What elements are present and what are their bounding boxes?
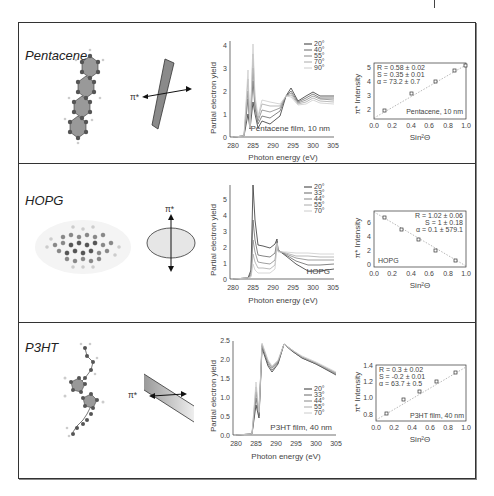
p3ht-molecule [55, 340, 115, 440]
svg-text:1: 1 [223, 260, 227, 267]
p3ht-orientation-plane: π* [128, 370, 208, 430]
svg-text:0.8: 0.8 [363, 411, 373, 418]
svg-text:π*: π* [165, 204, 175, 214]
svg-text:300: 300 [307, 142, 319, 149]
svg-text:0: 0 [223, 276, 227, 283]
svg-text:2: 2 [367, 106, 371, 113]
svg-text:Sin²Θ: Sin²Θ [410, 435, 430, 444]
pi-star-label: π* [130, 90, 150, 102]
svg-text:1.0: 1.0 [461, 122, 471, 129]
svg-text:Photon energy (eV): Photon energy (eV) [251, 452, 321, 461]
svg-text:0.2: 0.2 [387, 270, 397, 277]
svg-text:90°: 90° [314, 64, 325, 71]
svg-text:305: 305 [327, 142, 339, 149]
panel-title-hopg: HOPG [25, 193, 63, 208]
svg-text:1.2: 1.2 [363, 378, 373, 385]
svg-text:3: 3 [367, 92, 371, 99]
svg-text:2.0: 2.0 [220, 356, 230, 363]
pentacene-fit-chart: π* Intensity 2 3 4 5 0.0 0.2 0.4 0.6 0.8… [350, 60, 470, 150]
svg-text:HOPG: HOPG [306, 267, 330, 276]
hopg-graphene-lattice [33, 217, 133, 277]
svg-text:0: 0 [367, 261, 371, 268]
svg-text:0.0: 0.0 [220, 432, 230, 439]
svg-text:α = 63.7 ± 0.5: α = 63.7 ± 0.5 [379, 380, 422, 387]
hopg-spectrum-chart: Partial electron yield 0 1 2 3 4 5 280 2… [208, 180, 338, 310]
svg-text:280: 280 [230, 440, 242, 447]
svg-text:4: 4 [223, 42, 227, 49]
svg-text:Photon energy (eV): Photon energy (eV) [248, 296, 318, 305]
svg-text:1.4: 1.4 [363, 362, 373, 369]
hopg-orientation-plane: π* [145, 203, 205, 283]
svg-text:70°: 70° [314, 207, 325, 214]
svg-text:S = 0.35 ± 0.01: S = 0.35 ± 0.01 [377, 71, 425, 78]
svg-text:1: 1 [223, 111, 227, 118]
page-edge-mark [434, 0, 435, 8]
svg-text:2: 2 [223, 244, 227, 251]
pentacene-spectrum-chart: Partial electron yield 0 1 2 3 4 280 285… [208, 36, 338, 164]
svg-text:4: 4 [367, 78, 371, 85]
svg-text:0.2: 0.2 [387, 122, 397, 129]
svg-text:3: 3 [223, 228, 227, 235]
svg-text:1.0: 1.0 [461, 424, 471, 431]
hopg-fit-chart: π* Intensity 0 2 4 6 0.0 0.2 0.4 0.6 0.8… [350, 208, 470, 298]
svg-text:π* Intensity: π* Intensity [353, 372, 362, 413]
svg-text:70°: 70° [314, 409, 325, 416]
svg-text:6: 6 [367, 219, 371, 226]
svg-text:300: 300 [307, 284, 319, 291]
svg-text:Partial electron yield: Partial electron yield [209, 360, 218, 432]
panel-divider [18, 322, 476, 323]
svg-text:0.0: 0.0 [369, 270, 379, 277]
svg-text:1.5: 1.5 [220, 375, 230, 382]
svg-text:305: 305 [327, 284, 339, 291]
svg-text:0.5: 0.5 [220, 413, 230, 420]
svg-text:295: 295 [287, 142, 299, 149]
svg-text:0.4: 0.4 [406, 270, 416, 277]
svg-text:295: 295 [287, 284, 299, 291]
svg-text:0.4: 0.4 [406, 122, 416, 129]
svg-text:2.5: 2.5 [220, 337, 230, 344]
svg-text:Sin²Θ: Sin²Θ [410, 281, 430, 290]
svg-text:0.6: 0.6 [424, 122, 434, 129]
p3ht-fit-chart: π* Intensity 0.8 1.0 1.2 1.4 0.0 0.2 0.4… [350, 362, 470, 452]
svg-text:π*: π* [128, 390, 138, 400]
svg-text:290: 290 [267, 284, 279, 291]
svg-text:Pentacene film, 10 nm: Pentacene film, 10 nm [250, 124, 330, 133]
svg-text:P3HT film, 40 nm: P3HT film, 40 nm [410, 412, 464, 419]
svg-text:1.0: 1.0 [363, 394, 373, 401]
svg-text:π*: π* [130, 92, 140, 102]
svg-text:π* Intensity: π* Intensity [353, 74, 362, 115]
svg-text:HOPG: HOPG [378, 257, 399, 264]
svg-text:0.0: 0.0 [369, 122, 379, 129]
panel-title-p3ht: P3HT [25, 340, 58, 355]
svg-text:α = 0.1 ± 579.1: α = 0.1 ± 579.1 [416, 226, 463, 233]
svg-text:5: 5 [223, 196, 227, 203]
svg-text:1.0: 1.0 [461, 270, 471, 277]
svg-text:0.8: 0.8 [443, 424, 453, 431]
svg-text:S = -0.2 ± 0.01: S = -0.2 ± 0.01 [379, 373, 425, 380]
svg-text:R = 0.58 ± 0.02: R = 0.58 ± 0.02 [377, 64, 425, 71]
svg-text:0: 0 [223, 134, 227, 141]
svg-text:0.8: 0.8 [443, 270, 453, 277]
svg-text:0.8: 0.8 [443, 122, 453, 129]
svg-text:290: 290 [267, 142, 279, 149]
svg-text:290: 290 [270, 440, 282, 447]
svg-text:4: 4 [223, 212, 227, 219]
p3ht-spectrum-chart: Partial electron yield 0.0 0.5 1.0 1.5 2… [208, 336, 338, 466]
svg-text:1.0: 1.0 [220, 394, 230, 401]
svg-text:R = 1.02 ± 0.06: R = 1.02 ± 0.06 [415, 212, 463, 219]
svg-text:280: 280 [227, 142, 239, 149]
svg-text:300: 300 [310, 440, 322, 447]
svg-text:285: 285 [247, 142, 259, 149]
svg-text:0.4: 0.4 [407, 424, 417, 431]
svg-text:P3HT film, 40 nm: P3HT film, 40 nm [270, 423, 332, 432]
svg-text:Partial electron yield: Partial electron yield [209, 62, 218, 134]
svg-text:0.2: 0.2 [389, 424, 399, 431]
svg-text:π* Intensity: π* Intensity [353, 218, 362, 259]
svg-text:285: 285 [247, 284, 259, 291]
svg-text:Sin²Θ: Sin²Θ [410, 133, 430, 142]
svg-text:280: 280 [227, 284, 239, 291]
svg-text:295: 295 [290, 440, 302, 447]
svg-text:R = 0.3 ± 0.02: R = 0.3 ± 0.02 [379, 366, 423, 373]
svg-text:4: 4 [367, 233, 371, 240]
pentacene-molecule [60, 48, 120, 143]
